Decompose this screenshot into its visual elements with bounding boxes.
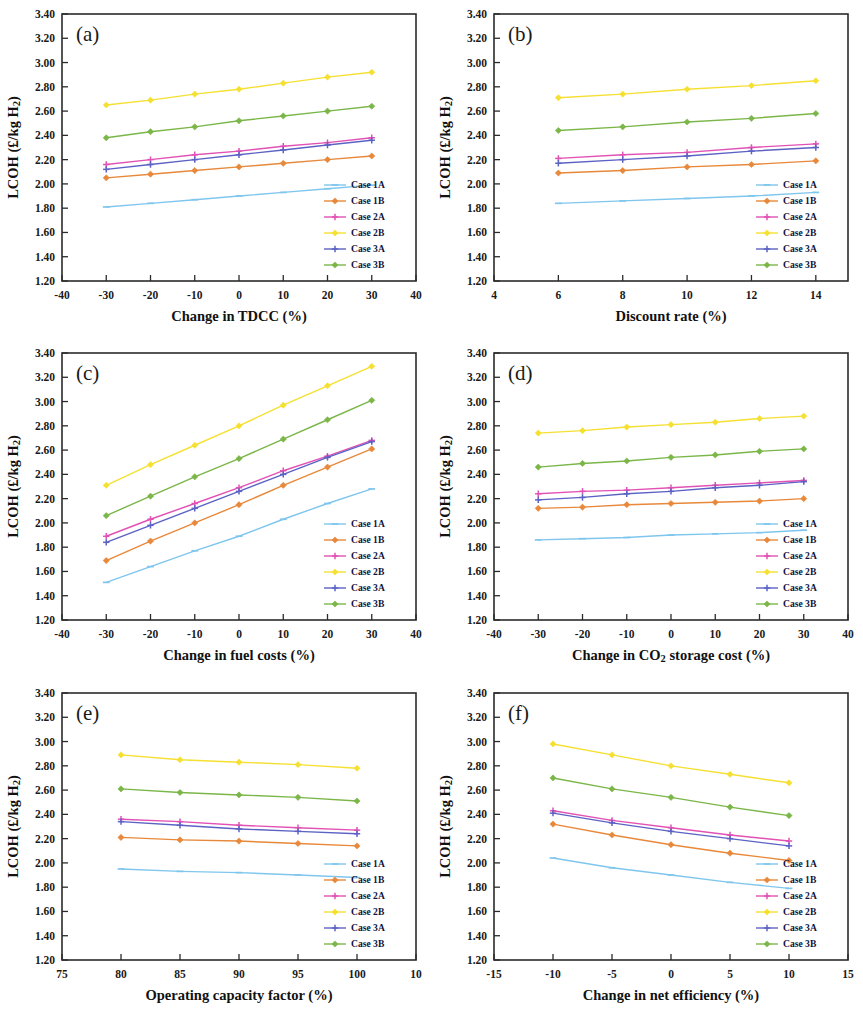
- y-tick-label: 1.40: [467, 930, 487, 942]
- chart-panel-a: 3.403.203.002.802.602.402.202.001.801.60…: [0, 0, 432, 339]
- x-axis-title: Change in net efficiency (%): [583, 987, 760, 1004]
- y-tick-label: 2.20: [467, 154, 487, 166]
- panel-letter: (f): [508, 701, 529, 725]
- y-tick-label: 2.60: [35, 105, 55, 117]
- chart-panel-b: 3.403.203.002.802.602.402.202.001.801.60…: [432, 0, 863, 339]
- legend-item-label: Case 3A: [351, 922, 385, 933]
- series-case-2b: [535, 413, 807, 436]
- x-tick-label: -10: [187, 628, 203, 640]
- legend: Case 1ACase 1BCase 2ACase 2BCase 3ACase …: [324, 518, 385, 609]
- x-tick-label: 95: [292, 968, 304, 980]
- y-tick-label: 1.20: [467, 275, 487, 287]
- y-tick-label: 3.20: [467, 371, 487, 383]
- y-tick-label: 3.00: [467, 396, 487, 408]
- y-tick-label: 2.00: [467, 178, 487, 190]
- legend-item-label: Case 1A: [351, 858, 385, 869]
- series-case-2b: [550, 741, 792, 786]
- y-tick-label: 3.40: [467, 687, 487, 699]
- y-axis-title: LCOH (£/kg H2): [437, 96, 454, 199]
- legend-item-label: Case 2A: [351, 211, 385, 222]
- y-tick-label: 2.80: [35, 760, 55, 772]
- y-tick-label: 1.60: [467, 905, 487, 917]
- series-case-1a: [555, 192, 819, 203]
- y-tick-label: 1.20: [467, 954, 487, 966]
- x-tick-label: 20: [322, 628, 334, 640]
- legend-item-label: Case 2A: [783, 890, 817, 901]
- y-tick-label: 1.60: [35, 565, 55, 577]
- x-tick-label: 20: [322, 289, 334, 301]
- y-axis-title: LCOH (£/kg H2): [5, 96, 22, 199]
- legend-item-label: Case 1B: [351, 534, 385, 545]
- legend-item-label: Case 1A: [783, 858, 817, 869]
- y-tick-label: 2.60: [467, 784, 487, 796]
- y-tick-label: 3.20: [35, 32, 55, 44]
- plot-frame: [62, 14, 416, 281]
- y-tick-label: 2.00: [35, 517, 55, 529]
- series-case-1a: [550, 858, 793, 888]
- x-axis-title: Discount rate (%): [615, 308, 726, 325]
- series-case-3a: [103, 438, 375, 545]
- x-axis-title: Change in TDCC (%): [171, 308, 307, 325]
- legend-item-label: Case 3B: [783, 938, 817, 949]
- figure-panel-grid: 3.403.203.002.802.602.402.202.001.801.60…: [0, 0, 863, 1018]
- legend-item-label: Case 2B: [351, 566, 385, 577]
- series-case-3b: [535, 446, 807, 470]
- y-tick-label: 1.60: [35, 905, 55, 917]
- x-axis-title: Operating capacity factor (%): [146, 987, 333, 1004]
- x-tick-label: 100: [348, 968, 366, 980]
- y-tick-label: 3.20: [467, 711, 487, 723]
- y-tick-label: 2.40: [35, 808, 55, 820]
- y-tick-label: 2.40: [467, 468, 487, 480]
- y-tick-label: 2.20: [467, 493, 487, 505]
- series-case-1b: [555, 158, 819, 176]
- legend-item-label: Case 1A: [783, 179, 817, 190]
- y-tick-label: 1.40: [35, 930, 55, 942]
- legend-item-label: Case 2B: [783, 566, 817, 577]
- series-case-3b: [555, 110, 819, 133]
- x-tick-label: 80: [115, 968, 127, 980]
- x-tick-label: 12: [746, 289, 758, 301]
- x-tick-label: 10: [783, 968, 795, 980]
- x-tick-label: 30: [366, 289, 378, 301]
- y-tick-label: 2.40: [35, 468, 55, 480]
- legend-item-label: Case 2B: [783, 227, 817, 238]
- legend: Case 1ACase 1BCase 2ACase 2BCase 3ACase …: [324, 858, 385, 949]
- series-case-1a: [118, 869, 361, 877]
- x-tick-label: 15: [842, 968, 854, 980]
- legend: Case 1ACase 1BCase 2ACase 2BCase 3ACase …: [324, 179, 385, 270]
- series-case-2b: [103, 363, 375, 488]
- x-tick-label: 30: [798, 628, 810, 640]
- legend-item-label: Case 2B: [351, 906, 385, 917]
- x-tick-label: -40: [54, 628, 70, 640]
- x-tick-label: -40: [54, 289, 70, 301]
- y-tick-label: 2.00: [35, 857, 55, 869]
- series-case-2b: [103, 69, 375, 108]
- panel-letter: (a): [76, 22, 99, 46]
- x-axis-title: Change in fuel costs (%): [163, 647, 315, 664]
- series-case-3b: [550, 775, 792, 819]
- y-tick-label: 2.20: [35, 493, 55, 505]
- y-tick-label: 1.40: [467, 251, 487, 263]
- y-tick-label: 1.40: [35, 590, 55, 602]
- y-tick-label: 1.20: [35, 614, 55, 626]
- y-tick-label: 3.40: [35, 347, 55, 359]
- y-tick-label: 1.80: [467, 881, 487, 893]
- y-tick-label: 2.20: [35, 833, 55, 845]
- series-case-3b: [103, 103, 375, 141]
- series-case-2b: [555, 78, 819, 101]
- x-tick-label: 8: [620, 289, 626, 301]
- panel-letter: (b): [508, 22, 533, 46]
- series-case-2a: [550, 808, 792, 845]
- legend-item-label: Case 3A: [783, 243, 817, 254]
- y-tick-label: 2.60: [467, 105, 487, 117]
- chart-panel-c: 3.403.203.002.802.602.402.202.001.801.60…: [0, 339, 432, 679]
- x-tick-label: 85: [174, 968, 186, 980]
- legend-item-label: Case 2A: [351, 890, 385, 901]
- y-tick-label: 1.60: [467, 565, 487, 577]
- y-tick-label: 2.00: [35, 178, 55, 190]
- series-case-3b: [118, 786, 360, 804]
- x-tick-label: -10: [545, 968, 561, 980]
- y-tick-label: 1.20: [35, 275, 55, 287]
- y-tick-label: 2.80: [467, 81, 487, 93]
- y-tick-label: 1.80: [35, 541, 55, 553]
